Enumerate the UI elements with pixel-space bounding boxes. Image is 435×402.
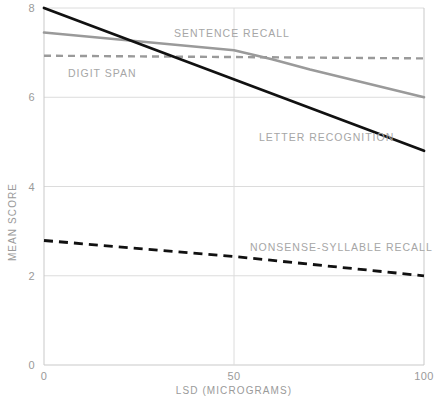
x-tick-label-50: 50 [228,370,241,382]
x-tick-label-100: 100 [414,370,433,382]
y-tick-label-8: 8 [29,2,35,14]
y-tick-label-0: 0 [29,359,35,371]
y-tick-label-2: 2 [29,270,35,282]
series-annotation-nonsense-syllable-recall: NONSENSE-SYLLABLE RECALL [250,241,433,253]
x-tick-label-0: 0 [41,370,47,382]
x-axis-title: LSD (MICROGRAMS) [176,385,293,396]
y-tick-label-6: 6 [29,91,35,103]
lsd-dose-response-chart: 8 6 4 2 0 0 50 100 MEAN SCORE LSD (MICRO… [0,0,435,402]
series-annotation-digit-span: DIGIT SPAN [68,67,137,79]
chart-container: 8 6 4 2 0 0 50 100 MEAN SCORE LSD (MICRO… [0,0,435,402]
series-annotation-letter-recognition: LETTER RECOGNITION [259,131,394,143]
series-annotation-sentence-recall: SENTENCE RECALL [174,27,290,39]
y-axis-title: MEAN SCORE [7,183,18,261]
y-tick-label-4: 4 [29,181,35,193]
